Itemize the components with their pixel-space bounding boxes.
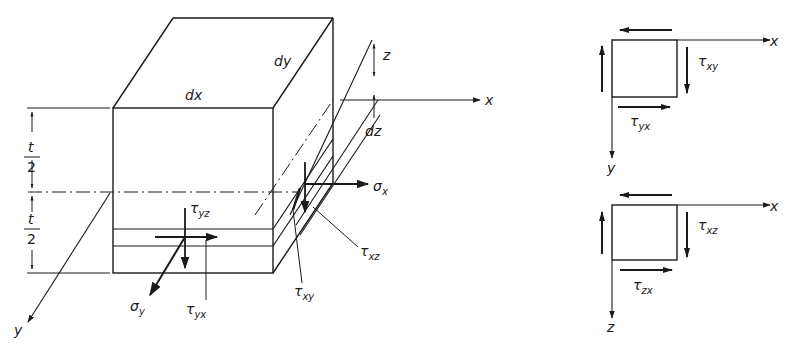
thickness-dimension [27, 108, 110, 273]
label-t-half-lower: t 2 [24, 211, 40, 247]
label-z: z [382, 47, 391, 63]
label-dx: dx [185, 87, 203, 103]
label-dz: dz [365, 123, 382, 139]
label-element-xz-z: z [606, 319, 615, 335]
label-x-axis: x [484, 92, 494, 108]
label-t-half-upper: t 2 [24, 139, 40, 175]
svg-text:t: t [28, 139, 34, 155]
svg-text:2: 2 [27, 231, 36, 247]
label-element-tau-xz: τxz [698, 217, 718, 236]
svg-text:2: 2 [27, 159, 36, 175]
label-element-xz-x: x [769, 198, 779, 214]
label-tau-xy: τxy [294, 283, 315, 302]
label-element-xy-y: y [606, 160, 616, 176]
element-xy [602, 30, 770, 158]
label-tau-yx: τyx [186, 301, 206, 320]
label-element-tau-xy: τxy [698, 53, 719, 72]
label-dy: dy [274, 53, 292, 69]
label-element-xy-x: x [769, 33, 779, 49]
label-element-tau-yx: τyx [630, 113, 650, 132]
y-axis-oblique [28, 193, 110, 322]
label-tau-yz: τyz [190, 200, 210, 219]
svg-text:t: t [28, 211, 34, 227]
label-sigma-y: σy [130, 298, 146, 317]
label-y-axis: y [13, 322, 23, 338]
label-element-tau-zx: τzx [633, 277, 653, 296]
element-xz [602, 195, 770, 318]
stress-diagram: dx dy z dz x y t 2 t 2 σx τyz σy τyx τxy… [0, 0, 795, 346]
mid-plane-line [28, 100, 333, 215]
label-tau-xz: τxz [360, 243, 380, 262]
label-sigma-x: σx [373, 178, 388, 197]
